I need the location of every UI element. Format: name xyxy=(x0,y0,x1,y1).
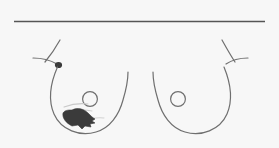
breast-diagram-illustration xyxy=(0,0,279,148)
background-plate xyxy=(0,0,279,148)
diagram-canvas: Right Left xyxy=(0,0,279,148)
right-axillary-node-marker xyxy=(55,62,62,68)
